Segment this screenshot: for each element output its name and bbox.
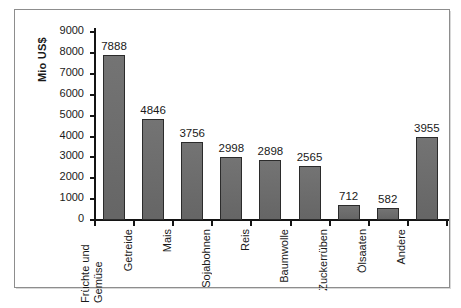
x-tick [133, 220, 135, 226]
bar-zuckerrueben[interactable]: 712 [338, 205, 360, 220]
x-category-label-fruechte-und-gemuese: Früchte und Gemüse [79, 229, 107, 303]
bar-andere[interactable]: 3955 [416, 137, 438, 220]
y-axis-title: Mio US$ [35, 30, 49, 90]
y-tick-label: 6000 [60, 87, 84, 100]
y-tick-8000: 8000 [90, 52, 95, 54]
y-tick-5000: 5000 [90, 115, 95, 117]
y-tick-label: 1000 [60, 191, 84, 204]
bar-value-label: 2565 [297, 151, 323, 164]
plot-area: 9000 8000 7000 6000 5000 4000 3000 2000 [95, 32, 447, 220]
bar-value-label: 3955 [414, 122, 440, 135]
y-tick-label: 7000 [60, 66, 84, 79]
bar-baumwolle[interactable]: 2565 [299, 166, 321, 220]
x-tick [329, 220, 331, 226]
x-tick [290, 220, 292, 226]
x-category-label-baumwolle: Baumwolle [278, 229, 291, 283]
y-tick-6000: 6000 [90, 94, 95, 96]
bar-getreide[interactable]: 4846 [142, 119, 164, 220]
bar-fruechte-und-gemuese[interactable]: 7888 [103, 55, 125, 220]
x-category-label-oelsaaten: Ölsaaten [356, 229, 369, 273]
bar-value-label: 3756 [179, 127, 205, 140]
bar-value-label: 2998 [219, 142, 245, 155]
x-category-label-zuckerrueben: Zuckerrüben [317, 229, 330, 291]
chart-figure: Mio US$ 9000 8000 7000 6000 5000 4000 [0, 0, 461, 308]
y-tick-9000: 9000 [90, 31, 95, 33]
bar-value-label: 4846 [140, 104, 166, 117]
y-tick-label: 2000 [60, 170, 84, 183]
x-tick [368, 220, 370, 226]
y-tick-label: 9000 [60, 24, 84, 37]
y-tick-label: 8000 [60, 45, 84, 58]
bar-value-label: 712 [339, 190, 358, 203]
bar-sojabohnen[interactable]: 2998 [220, 157, 242, 220]
y-tick-2000: 2000 [90, 177, 95, 179]
bar-oelsaaten[interactable]: 582 [377, 208, 399, 220]
bar-reis[interactable]: 2898 [259, 160, 281, 221]
bar-value-label: 7888 [101, 40, 127, 53]
x-tick [407, 220, 409, 226]
x-tick [250, 220, 252, 226]
bar-mais[interactable]: 3756 [181, 142, 203, 220]
y-tick-1000: 1000 [90, 198, 95, 200]
x-category-label-getreide: Getreide [122, 229, 135, 271]
y-tick-label: 4000 [60, 129, 84, 142]
y-axis-line [94, 28, 96, 222]
y-tick-label: 0 [78, 212, 84, 225]
x-category-label-reis: Reis [239, 229, 252, 251]
y-tick-4000: 4000 [90, 136, 95, 138]
y-tick-label: 3000 [60, 149, 84, 162]
y-tick-label: 5000 [60, 108, 84, 121]
bar-value-label: 2898 [258, 145, 284, 158]
x-category-label-andere: Andere [395, 229, 408, 264]
x-tick [94, 220, 96, 226]
chart-frame: Mio US$ 9000 8000 7000 6000 5000 4000 [14, 9, 450, 288]
x-category-label-mais: Mais [161, 229, 174, 252]
x-tick [172, 220, 174, 226]
x-tick [446, 220, 448, 226]
bar-value-label: 582 [378, 193, 397, 206]
x-category-label-sojabohnen: Sojabohnen [200, 229, 213, 288]
x-tick [211, 220, 213, 226]
y-tick-7000: 7000 [90, 73, 95, 75]
y-tick-3000: 3000 [90, 156, 95, 158]
